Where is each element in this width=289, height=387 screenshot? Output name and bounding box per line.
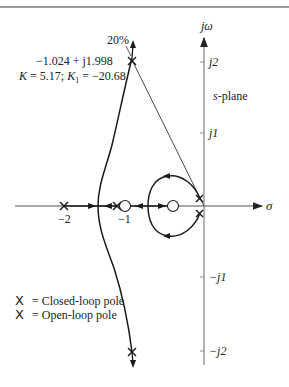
pole-value-label: −1.024 + j1.998 xyxy=(36,55,113,68)
arrow-left-icon xyxy=(163,173,170,179)
plane-label: s-plane xyxy=(213,90,248,103)
imag-axis-label: jω xyxy=(201,20,213,33)
open-loop-pole-icon: X xyxy=(15,307,29,322)
arrow-right-icon xyxy=(88,203,96,209)
tick-label-neg1: −1 xyxy=(118,213,131,226)
tick-label-j1: j1 xyxy=(209,127,218,140)
real-axis-label: σ xyxy=(266,199,272,212)
zero-marker xyxy=(168,201,179,212)
zero-marker xyxy=(120,201,131,212)
tick-label-neg-j1: −j1 xyxy=(209,271,226,284)
overshoot-label: 20% xyxy=(107,34,129,47)
tick-label-neg-j2: −j2 xyxy=(209,345,226,358)
tick-label-neg2: −2 xyxy=(58,213,71,226)
legend-open-loop: X = Open-loop pole xyxy=(15,307,117,323)
arrow-left-icon xyxy=(163,233,170,239)
arrow-left-icon xyxy=(104,203,112,209)
overshoot-line xyxy=(132,60,204,206)
root-locus-diagram: jω σ s-plane j2 j1 −j1 −j2 −2 −1 20% −1.… xyxy=(0,0,289,387)
arrow-down-icon xyxy=(130,360,136,368)
closed-loop-pole-icon: X xyxy=(15,293,29,308)
tick-label-j2: j2 xyxy=(209,56,218,69)
arrow-left-icon xyxy=(135,203,143,209)
gain-label: K = 5.17; K1 = −20.68 xyxy=(19,70,126,87)
arrow-up-icon xyxy=(130,40,136,48)
arrow-right-icon xyxy=(158,203,166,209)
